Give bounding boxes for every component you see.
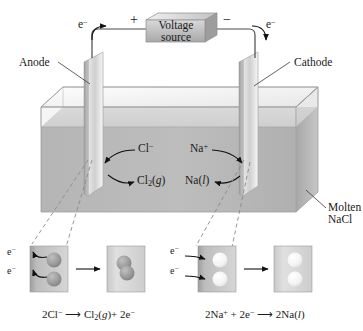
cathode-electrode [239,52,258,196]
anode-label: Anode [19,57,50,69]
inset-panels [0,240,363,302]
inset-anode-product [107,246,145,292]
inset-electron-label-right-bottom: e− [170,266,179,276]
anode-electrode [84,52,103,196]
inset-electron-label-left-top: e− [7,247,16,257]
inset-cathode-reactant [185,246,236,292]
inset-anode-reactant [30,246,68,292]
voltage-source-label: Voltage source [150,20,202,43]
negative-terminal-label: − [223,13,231,27]
inset-electron-label-left-bottom: e− [7,266,16,276]
anode-half-reaction: 2Cl− ⟶ Cl2(g)+ 2e− [42,308,135,322]
cathode-label: Cathode [294,57,332,69]
chloride-ion-label: Cl− [138,143,154,155]
positive-terminal-label: + [130,13,138,27]
electron-label-right: e− [266,19,276,31]
electron-label-left: e− [78,19,88,31]
inset-cathode-product [274,246,312,292]
molten-nacl-label: Molten NaCl [328,201,361,225]
inset-electron-label-right-top: e− [170,246,179,256]
electrolysis-diagram: Voltage source + − e− e− Anode Cathode C… [0,0,363,331]
cathode-half-reaction: 2Na+ + 2e− ⟶ 2Na(l) [205,308,305,321]
chlorine-gas-label: Cl2(g) [137,175,165,188]
sodium-ion-label: Na+ [190,143,208,155]
sodium-liquid-label: Na(l) [185,175,209,187]
